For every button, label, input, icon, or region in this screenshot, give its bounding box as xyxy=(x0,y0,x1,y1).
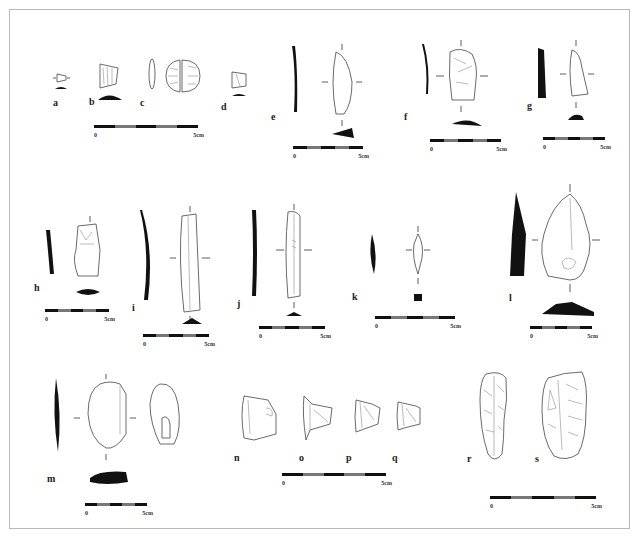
artifact-label: r xyxy=(467,454,471,464)
artifact-k-drawing xyxy=(368,224,438,304)
artifact-label: m xyxy=(47,474,55,484)
artifact-label: k xyxy=(352,292,358,302)
artifact-label: g xyxy=(527,101,532,111)
artifact-label: h xyxy=(34,283,40,293)
artifact-j-drawing xyxy=(250,200,330,320)
artifact-label: b xyxy=(89,97,95,107)
artifact-s-drawing xyxy=(538,370,594,466)
artifact-l-drawing xyxy=(508,184,608,324)
artifact-q-drawing xyxy=(396,400,424,436)
artifact-label: f xyxy=(404,112,407,122)
artifact-label: i xyxy=(132,303,135,313)
artifact-e-drawing xyxy=(286,42,366,142)
artifact-label: c xyxy=(140,98,144,108)
artifact-m-drawing xyxy=(50,374,200,494)
artifact-r-drawing xyxy=(476,370,516,466)
artifact-label: q xyxy=(392,453,398,463)
artifact-o-drawing xyxy=(300,394,336,444)
artifact-a-drawing xyxy=(52,72,72,96)
artifact-p-drawing xyxy=(352,398,388,438)
artifact-label: d xyxy=(221,102,227,112)
artifact-n-drawing xyxy=(240,394,282,446)
artifact-label: l xyxy=(509,293,512,303)
artifact-i-drawing xyxy=(140,200,220,330)
artifact-b-drawing xyxy=(94,62,126,106)
artifact-c-drawing xyxy=(146,56,216,96)
artifact-label: e xyxy=(271,112,275,122)
artifact-label: p xyxy=(346,453,352,463)
artifact-f-drawing xyxy=(418,36,498,136)
artifact-label: a xyxy=(53,98,58,108)
artifact-g-drawing xyxy=(536,38,606,128)
artifact-label: n xyxy=(234,453,240,463)
artifact-label: s xyxy=(535,454,539,464)
artifact-label: j xyxy=(237,299,240,309)
artifact-d-drawing xyxy=(226,70,252,102)
artifact-h-drawing xyxy=(44,210,114,300)
artifact-label: o xyxy=(299,453,304,463)
